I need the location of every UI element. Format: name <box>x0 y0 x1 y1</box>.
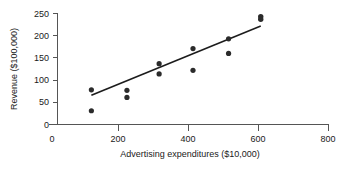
y-axis-title: Revenue ($100,000) <box>9 28 19 110</box>
x-axis-title: Advertising expenditures ($10,000) <box>120 149 260 159</box>
y-tick-label-200: 200 <box>34 31 49 41</box>
data-point <box>190 68 195 73</box>
data-point <box>157 61 162 66</box>
data-point <box>157 71 162 76</box>
data-point <box>226 36 231 41</box>
data-point <box>258 17 263 22</box>
x-tick-label-800: 800 <box>320 134 335 144</box>
scatter-plot-figure: 250 200 150 100 50 0 0 200 400 600 800 A… <box>0 0 349 173</box>
x-tick-label-0: 0 <box>49 134 54 144</box>
y-axis-ticks <box>53 14 58 125</box>
y-tick-label-50: 50 <box>39 97 49 107</box>
x-tick-label-200: 200 <box>110 134 125 144</box>
trend-line <box>91 26 260 95</box>
data-point <box>190 46 195 51</box>
data-point <box>124 95 129 100</box>
y-tick-label-150: 150 <box>34 53 49 63</box>
chart-canvas: 250 200 150 100 50 0 0 200 400 600 800 A… <box>0 0 349 173</box>
data-point <box>89 108 94 113</box>
x-axis-ticks <box>119 125 329 131</box>
y-tick-label-250: 250 <box>34 9 49 19</box>
x-tick-label-400: 400 <box>180 134 195 144</box>
data-point <box>124 88 129 93</box>
data-points-group <box>89 14 264 113</box>
data-point <box>89 87 94 92</box>
x-axis-tick-labels: 0 200 400 600 800 <box>49 134 335 144</box>
data-point <box>226 51 231 56</box>
y-axis-tick-labels: 250 200 150 100 50 0 <box>34 9 49 130</box>
x-tick-label-600: 600 <box>250 134 265 144</box>
y-tick-label-100: 100 <box>34 75 49 85</box>
y-tick-label-0: 0 <box>44 120 49 130</box>
